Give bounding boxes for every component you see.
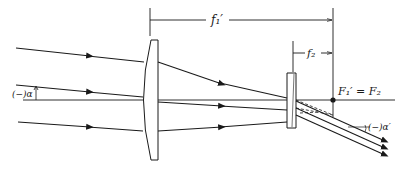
virtual-ray-extensions <box>296 100 333 115</box>
focal-point <box>330 97 335 102</box>
input-angle-marker: (−)α <box>12 86 38 100</box>
output-angle-label: (−)α′ <box>368 122 391 132</box>
diverging-lens <box>287 73 296 128</box>
f2-label: f₂ <box>306 47 315 60</box>
input-angle-label: (−)α <box>12 89 33 99</box>
f1-dimension: f₁′ <box>150 8 332 36</box>
output-angle-marker: (−)α′ <box>348 122 391 132</box>
converging-lens <box>144 40 159 160</box>
incoming-rays <box>16 48 144 131</box>
f1-prime-label: f₁′ <box>210 13 223 27</box>
optical-diagram: f₁′ f₂ <box>0 0 405 169</box>
focal-point-label: F₁′ = F₂ <box>337 85 381 98</box>
f2-dimension: f₂ <box>293 41 332 72</box>
converging-rays <box>158 62 287 131</box>
